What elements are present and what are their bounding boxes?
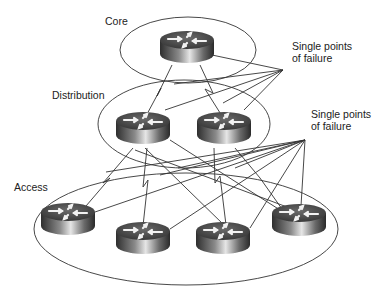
callout-1-line2: of failure xyxy=(292,52,352,64)
callout-2: Single points of failure xyxy=(311,108,371,132)
callout-1: Single points of failure xyxy=(292,40,352,64)
access-router-4 xyxy=(272,204,326,236)
access-router-2 xyxy=(116,222,170,254)
core-router xyxy=(160,31,214,63)
callout-2-line2: of failure xyxy=(311,120,371,132)
access-label: Access xyxy=(14,181,48,193)
access-router-1 xyxy=(41,203,95,235)
distribution-label: Distribution xyxy=(52,89,105,101)
access-router-3 xyxy=(196,222,250,254)
links xyxy=(86,55,305,229)
callout-2-line1: Single points xyxy=(311,108,371,120)
distribution-router-right xyxy=(197,112,251,144)
callout-1-line1: Single points xyxy=(292,40,352,52)
core-label: Core xyxy=(105,15,128,27)
distribution-router-left xyxy=(116,112,170,144)
